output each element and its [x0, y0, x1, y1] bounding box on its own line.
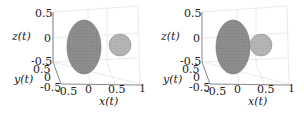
x-axis-label: x(t) [248, 96, 267, 107]
x-tick-1: 1 [288, 83, 295, 94]
y-axis-label: y(t) [14, 74, 33, 85]
x-tick-0.5: 0.5 [257, 84, 275, 95]
z-tick-0.5: 0.5 [184, 8, 202, 19]
axes-box-2 [152, 0, 304, 113]
ellipsoid-surface [67, 20, 101, 74]
z-tick-0: 0 [44, 33, 51, 44]
x-tick-neg0.5: -0.5 [56, 86, 77, 97]
x-tick-neg0.5: -0.5 [205, 86, 226, 97]
ellipsoid-surface [216, 20, 250, 74]
y-axis-label: y(t) [163, 74, 182, 85]
z-tick-0: 0 [193, 33, 200, 44]
sphere-surface [109, 34, 131, 56]
plot-panel-1: 0.5 0 -0.5 z(t) 0.5 0 -0.5 y(t) -0.5 0 0… [0, 0, 152, 113]
x-axis-label: x(t) [99, 96, 118, 107]
x-tick-0: 0 [234, 84, 241, 95]
sphere-surface [250, 34, 272, 56]
x-tick-1: 1 [139, 83, 146, 94]
z-tick-0.5: 0.5 [35, 8, 53, 19]
z-axis-label: z(t) [12, 31, 31, 42]
x-tick-0.5: 0.5 [108, 84, 126, 95]
plot-panel-2: 0.5 0 -0.5 z(t) 0.5 0 -0.5 y(t) -0.5 0 0… [152, 0, 304, 113]
z-axis-label: z(t) [161, 31, 180, 42]
x-tick-0: 0 [85, 84, 92, 95]
